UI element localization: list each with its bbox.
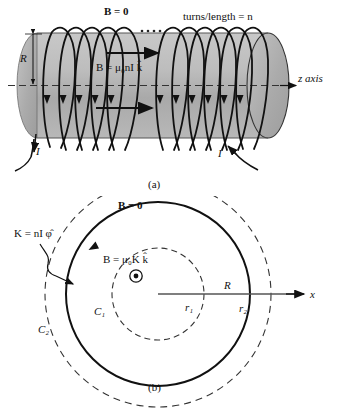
turns-per-length-label: turns/length = n <box>183 11 253 22</box>
panel-a-solenoid-perspective: B = 0 turns/length = n R B = μ₀nI k̂ z a… <box>0 0 337 200</box>
current-label-right: I <box>218 148 222 159</box>
b-field-formula-b: B = μ₀K k̂ <box>103 254 148 265</box>
b-field-formula-a: B = μ₀nI k̂ <box>96 62 142 73</box>
field-out-of-page-icon <box>130 270 142 282</box>
panel-a-drawing <box>0 0 337 200</box>
contour-c2-label: C₂ <box>38 324 49 335</box>
outer-radius-label: r₂ <box>239 303 247 314</box>
radius-label-b: R <box>224 280 231 291</box>
contour-c1-label: C₁ <box>94 306 105 317</box>
surface-current-formula: K = nI φ̂ <box>14 228 52 239</box>
b-equals-zero-label-a: B = 0 <box>104 6 129 17</box>
panel-b-cross-section: B = 0 K = nI φ̂ B = μ₀K k̂ R x r₁ r₂ C₁ … <box>0 196 337 408</box>
x-axis-label: x <box>310 289 315 300</box>
b-equals-zero-label-b: B = 0 <box>118 200 143 211</box>
radius-label-a: R <box>20 53 27 64</box>
circulation-arrowhead <box>89 242 100 251</box>
current-label-left: I <box>36 146 40 157</box>
current-lead-left <box>15 134 36 171</box>
coil-ellipsis-dots <box>141 30 162 33</box>
contour-c2-circle <box>45 196 271 407</box>
z-axis-label: z axis <box>298 73 323 84</box>
panel-a-caption: (a) <box>148 179 160 190</box>
inner-radius-label: r₁ <box>185 302 193 313</box>
panel-b-caption: (b) <box>148 382 161 393</box>
figure-root: B = 0 turns/length = n R B = μ₀nI k̂ z a… <box>0 0 337 408</box>
